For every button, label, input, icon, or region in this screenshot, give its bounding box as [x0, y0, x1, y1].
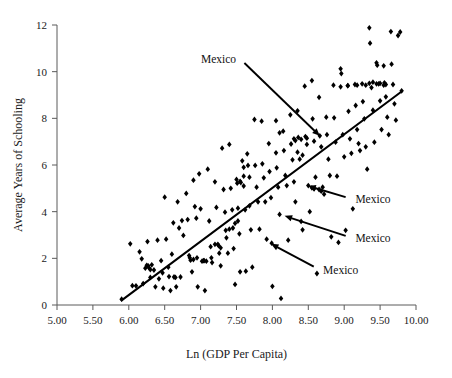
data-point	[214, 205, 219, 211]
data-point	[152, 267, 157, 273]
data-point	[389, 61, 394, 67]
data-point	[264, 236, 269, 242]
data-point	[195, 255, 200, 261]
data-point	[346, 83, 351, 89]
data-point	[193, 204, 198, 210]
data-point	[315, 271, 320, 277]
data-point	[247, 174, 252, 180]
data-point	[227, 142, 232, 148]
data-point	[197, 171, 202, 177]
data-point	[253, 163, 258, 169]
data-point	[218, 263, 223, 269]
data-point	[260, 161, 265, 167]
data-point	[324, 114, 329, 120]
data-point	[267, 169, 272, 175]
scatter-plot-svg: 5.005.506.006.507.007.508.008.509.009.50…	[0, 0, 452, 378]
data-point	[313, 174, 318, 180]
data-point	[284, 183, 289, 189]
data-point	[369, 85, 374, 91]
y-tick-label: 0	[42, 299, 48, 311]
y-tick-label: 4	[42, 206, 48, 218]
data-point	[342, 154, 347, 160]
data-point	[326, 156, 331, 162]
data-point	[355, 127, 360, 133]
data-point	[237, 231, 242, 237]
data-point	[228, 185, 233, 191]
data-point	[293, 199, 298, 205]
data-point	[277, 212, 282, 218]
data-point	[257, 226, 262, 232]
data-point	[168, 288, 173, 294]
data-point	[246, 163, 251, 169]
data-point	[180, 218, 185, 224]
data-point	[241, 173, 246, 179]
annotation-label-mexico-1: Mexico	[201, 53, 236, 65]
data-point	[363, 144, 368, 150]
data-point	[250, 264, 255, 270]
data-point	[159, 258, 164, 264]
annotation-leader-line	[315, 188, 346, 197]
data-point	[206, 166, 211, 172]
data-point	[252, 117, 257, 123]
x-tick-label: 10.00	[404, 314, 429, 326]
data-point	[378, 98, 383, 104]
data-point	[360, 81, 365, 87]
data-point	[353, 103, 358, 109]
data-point	[367, 25, 372, 31]
data-point	[282, 148, 287, 154]
data-point	[185, 217, 190, 223]
x-tick-label: 7.00	[191, 314, 211, 326]
data-point	[310, 78, 315, 84]
data-point	[302, 83, 307, 89]
data-point	[233, 282, 238, 288]
data-point	[300, 227, 305, 233]
data-point	[226, 250, 231, 256]
data-point	[238, 269, 243, 275]
data-point	[236, 205, 241, 211]
data-point	[263, 199, 268, 205]
data-point	[170, 251, 175, 257]
chart-figure: 5.005.506.006.507.007.508.008.509.009.50…	[0, 0, 452, 378]
axes: 5.005.506.006.507.007.508.008.509.009.50…	[36, 19, 429, 326]
data-point	[174, 284, 179, 290]
data-point	[343, 227, 348, 233]
data-point	[332, 115, 337, 121]
data-point	[381, 63, 386, 69]
data-point	[128, 241, 133, 247]
data-point	[312, 138, 317, 144]
data-point	[203, 288, 208, 294]
data-point	[194, 215, 199, 221]
y-tick-label: 10	[36, 66, 48, 78]
data-point	[177, 225, 182, 231]
data-point	[331, 82, 336, 88]
data-point	[191, 177, 196, 183]
data-point	[167, 274, 172, 280]
data-point	[241, 183, 246, 189]
x-axis-title: Ln (GDP Per Capita)	[186, 347, 287, 361]
data-point	[300, 152, 305, 158]
data-point	[386, 132, 391, 138]
data-point	[391, 82, 396, 88]
data-point	[231, 246, 236, 252]
data-point	[310, 116, 315, 122]
annotation-label-mexico-3: Mexico	[355, 232, 390, 244]
data-point	[241, 164, 246, 170]
data-point	[295, 149, 300, 155]
data-point	[175, 199, 180, 205]
data-point	[157, 276, 162, 282]
data-point	[178, 274, 183, 280]
data-point	[221, 187, 226, 193]
data-point	[190, 269, 195, 275]
data-point	[292, 179, 297, 185]
data-point	[356, 141, 361, 147]
x-tick-label: 5.50	[83, 314, 103, 326]
data-point	[384, 94, 389, 100]
data-point	[207, 218, 212, 224]
data-point	[339, 71, 344, 77]
data-point	[230, 207, 235, 213]
data-point	[267, 141, 272, 147]
data-point	[394, 117, 399, 123]
data-point	[184, 191, 189, 197]
data-point	[139, 256, 144, 262]
annotation-label-mexico-2: Mexico	[355, 193, 390, 205]
